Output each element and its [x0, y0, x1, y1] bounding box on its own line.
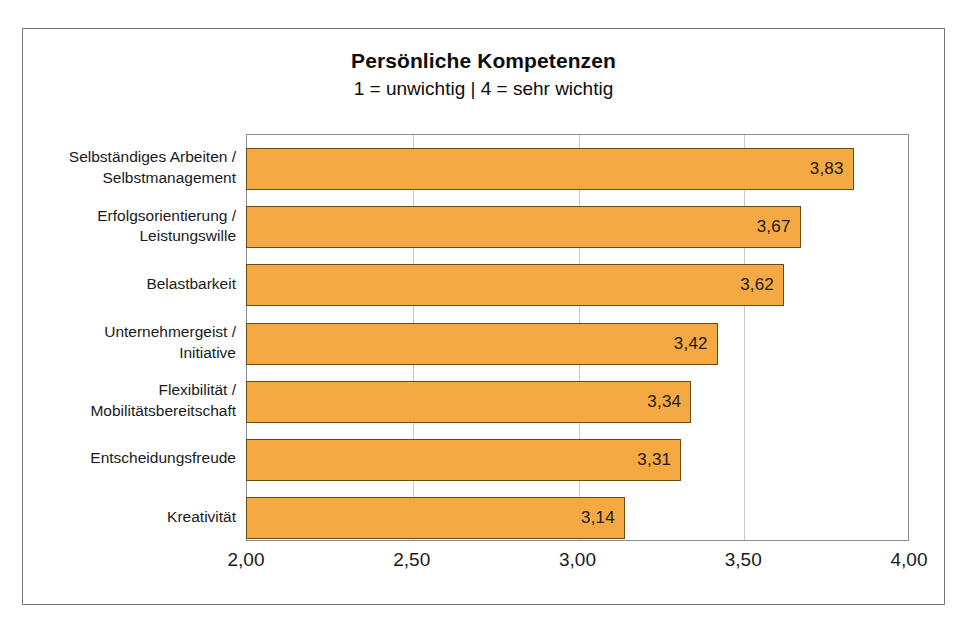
category-label: Belastbarkeit	[23, 263, 236, 305]
category-label-line: Selbständiges Arbeiten /	[69, 147, 236, 168]
bar-row: 3,67	[247, 206, 908, 248]
bar[interactable]: 3,14	[246, 497, 625, 539]
bar-row: 3,14	[247, 497, 908, 539]
bar-row: 3,34	[247, 381, 908, 423]
category-label-line: Flexibilität /	[158, 380, 236, 401]
plot-area: 3,833,673,623,423,343,313,14	[246, 134, 909, 541]
bar-value-label: 3,34	[647, 392, 690, 412]
bar-row: 3,31	[247, 439, 908, 481]
bar-value-label: 3,42	[674, 334, 717, 354]
x-tick-label: 3,50	[725, 549, 762, 571]
category-label: Erfolgsorientierung /Leistungswille	[23, 205, 236, 247]
chart-title: Persönliche Kompetenzen	[23, 49, 944, 73]
chart-subtitle: 1 = unwichtig | 4 = sehr wichtig	[23, 77, 944, 101]
bar[interactable]: 3,62	[246, 264, 784, 306]
bar-value-label: 3,31	[637, 450, 680, 470]
bar-value-label: 3,62	[740, 275, 783, 295]
x-tick-label: 2,50	[393, 549, 430, 571]
category-label-line: Kreativität	[167, 507, 236, 528]
bar-row: 3,62	[247, 264, 908, 306]
title-block: Persönliche Kompetenzen 1 = unwichtig | …	[23, 49, 944, 101]
bar[interactable]: 3,34	[246, 381, 691, 423]
x-tick-label: 3,00	[559, 549, 596, 571]
category-label: Kreativität	[23, 496, 236, 538]
bar[interactable]: 3,83	[246, 148, 854, 190]
bar[interactable]: 3,31	[246, 439, 681, 481]
category-label-line: Erfolgsorientierung /	[97, 206, 236, 227]
category-label: Selbständiges Arbeiten /Selbstmanagement	[23, 147, 236, 189]
x-tick-label: 4,00	[891, 549, 928, 571]
category-label-line: Leistungswille	[140, 226, 237, 247]
category-label-line: Initiative	[179, 343, 236, 364]
x-tick-label: 2,00	[228, 549, 265, 571]
category-axis-labels: Selbständiges Arbeiten /Selbstmanagement…	[23, 134, 236, 541]
chart-frame: Persönliche Kompetenzen 1 = unwichtig | …	[22, 28, 945, 605]
category-label: Unternehmergeist /Initiative	[23, 322, 236, 364]
bar-value-label: 3,14	[581, 508, 624, 528]
bar-row: 3,42	[247, 323, 908, 365]
bar-value-label: 3,67	[757, 217, 800, 237]
category-label-line: Belastbarkeit	[146, 274, 236, 295]
x-axis-tick-labels: 2,002,503,003,504,00	[23, 549, 944, 583]
category-label-line: Unternehmergeist /	[104, 322, 236, 343]
category-label-line: Selbstmanagement	[102, 168, 236, 189]
category-label-line: Entscheidungsfreude	[90, 448, 236, 469]
category-label-line: Mobilitätsbereitschaft	[90, 401, 236, 422]
bar-row: 3,83	[247, 148, 908, 190]
bar-value-label: 3,83	[810, 159, 853, 179]
bar[interactable]: 3,67	[246, 206, 801, 248]
bar[interactable]: 3,42	[246, 323, 718, 365]
category-label: Entscheidungsfreude	[23, 438, 236, 480]
bar-series: 3,833,673,623,423,343,313,14	[247, 135, 908, 540]
category-label: Flexibilität /Mobilitätsbereitschaft	[23, 380, 236, 422]
